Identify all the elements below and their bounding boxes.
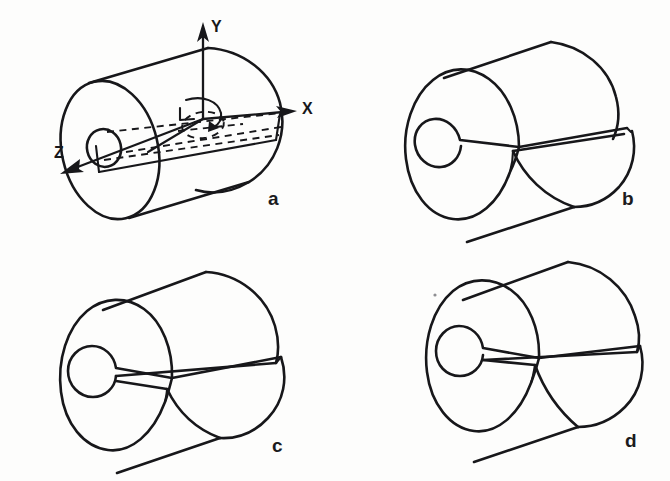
panel-b-label: b [622,188,634,209]
panel-d-slit-lower-face [535,365,578,427]
panel-c-label: c [272,435,283,456]
panel-d-slit-inner-edge [483,360,535,365]
figure-container: Hollow cylinder with longitudinal slit —… [0,0,670,481]
scan-speck [433,293,436,296]
panel-b-top-edge [444,42,551,78]
panel-d-bore-keyhole [436,326,539,376]
panel-d: d [426,262,642,462]
panel-b-slit-far-edge [627,128,631,132]
panel-a-near-cap-ellipse [47,71,172,229]
panel-a-x-axis-line [203,112,283,119]
panel-d-label: d [625,430,637,451]
panel-b-slit-lower-face [513,151,574,207]
cylinder-figure-svg: Hollow cylinder with longitudinal slit —… [0,0,670,481]
panel-c-far-cap-arc-upper [206,272,278,363]
panel-b: b [405,42,634,242]
panel-c-slit-lower-face [167,389,220,438]
panel-a-top-edge [89,48,208,83]
panel-d-far-cap-arc-upper [568,262,639,352]
panel-c: c [60,272,284,473]
panel-b-slit-bottom-wall [513,134,624,151]
panel-a-label: a [268,188,279,209]
panel-a-bottom-edge [129,182,249,218]
panel-a-plane-front-edge [99,140,276,172]
panel-c-slit-inner-edge [116,381,167,389]
panel-c-bottom-edge [117,438,220,473]
panel-b-bore-keyhole [415,119,519,167]
panel-c-far-cap-arc-lower [220,357,284,438]
panel-a: Y X Z a [47,18,313,229]
panel-a-z-axis-line [75,119,203,168]
panel-b-slit-top-wall [519,128,627,147]
panel-b-far-cap-arc-upper [551,42,618,139]
panel-a-x-axis-label: X [302,100,313,117]
panel-d-far-cap-arc-lower [578,346,642,427]
panel-a-y-axis-label: Y [211,18,222,35]
panel-a-z-axis-label: Z [54,144,64,161]
panel-d-bottom-edge [474,427,578,462]
panel-c-top-edge [103,272,206,310]
